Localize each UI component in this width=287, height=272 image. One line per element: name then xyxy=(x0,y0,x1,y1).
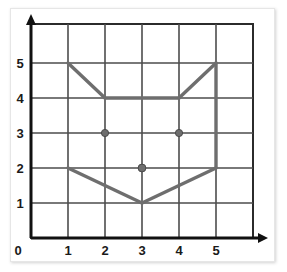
x-tick-label-2: 2 xyxy=(101,243,108,258)
point-right-eye xyxy=(175,129,182,136)
x-axis-arrowhead xyxy=(258,233,268,243)
y-axis-arrowhead xyxy=(26,14,36,25)
x-tick-label-0: 0 xyxy=(14,243,21,258)
y-tick-label-3: 3 xyxy=(16,126,23,141)
x-tick-label-1: 1 xyxy=(64,243,71,258)
y-tick-label-2: 2 xyxy=(16,161,23,176)
point-left-eye xyxy=(101,129,108,136)
coordinate-grid-figure: 0 1 2 3 4 5 1 2 3 4 5 xyxy=(0,0,287,272)
x-tick-label-5: 5 xyxy=(212,243,219,258)
y-tick-label-5: 5 xyxy=(16,56,23,71)
x-tick-label-4: 4 xyxy=(175,243,183,258)
x-tick-label-3: 3 xyxy=(138,243,145,258)
point-nose xyxy=(138,164,146,172)
y-tick-label-1: 1 xyxy=(16,196,23,211)
y-tick-label-4: 4 xyxy=(16,91,24,106)
